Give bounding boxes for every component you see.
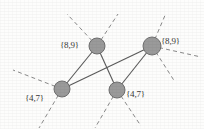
node-bottom-middle[interactable] [109,82,125,98]
node-top-left[interactable] [89,38,105,54]
node-top-right[interactable] [143,37,161,55]
graph-canvas [0,0,204,129]
edge-bottom-left-to-top-right [62,46,152,89]
node-top-right-label: {8,9} [161,37,180,46]
dashed-edge-layer [13,13,201,128]
node-bottom-middle-label: {4,7} [126,90,145,99]
node-bottom-left[interactable] [54,81,70,97]
node-top-left-label: {8,9} [60,41,79,50]
graph-figure: {8,9}{8,9}{4,7}{4,7} [0,0,204,129]
node-bottom-left-label: {4,7} [25,94,44,103]
solid-edge-layer [62,46,152,90]
